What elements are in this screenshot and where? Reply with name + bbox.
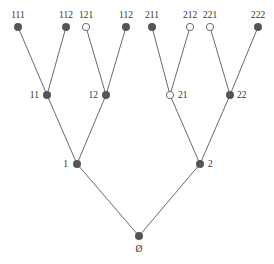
filled-node-root [135, 232, 143, 240]
labels: Ø1211122122111112121112211212221222 [11, 10, 265, 254]
node-label: 211 [145, 10, 159, 20]
filled-node-12 [102, 91, 110, 99]
node-label: 221 [203, 10, 218, 20]
open-node-221 [206, 23, 213, 30]
open-node-212 [186, 23, 193, 30]
node-label: 22 [237, 90, 247, 100]
edge-2-21 [170, 95, 200, 164]
filled-node-22 [226, 91, 234, 99]
edge-22-222 [230, 27, 258, 95]
tree-diagram: Ø1211122122111112121112211212221222 [0, 0, 274, 264]
filled-node-111 [14, 23, 22, 31]
filled-node-211 [148, 23, 156, 31]
open-node-21 [166, 91, 173, 98]
filled-node-1 [73, 160, 81, 168]
node-label: 2 [208, 159, 213, 169]
edge-root-2 [139, 164, 200, 236]
edge-1-12 [77, 95, 106, 164]
edge-22-221 [210, 27, 230, 95]
nodes [14, 23, 262, 240]
node-label: 12 [89, 90, 99, 100]
node-label: Ø [136, 244, 143, 254]
filled-node-2 [196, 160, 204, 168]
edge-12-121 [86, 27, 106, 95]
edge-21-212 [170, 27, 190, 95]
edge-1-11 [47, 95, 77, 164]
node-label: 222 [251, 10, 266, 20]
node-label: 112 [119, 10, 133, 20]
node-label: 212 [183, 10, 198, 20]
edge-root-1 [77, 164, 139, 236]
edge-2-22 [200, 95, 230, 164]
node-label: 121 [79, 10, 94, 20]
filled-node-222 [254, 23, 262, 31]
node-label: 111 [11, 10, 25, 20]
node-label: 112 [59, 10, 73, 20]
node-label: 11 [30, 90, 39, 100]
filled-node-11 [43, 91, 51, 99]
filled-node-112a [62, 23, 70, 31]
filled-node-112b [122, 23, 130, 31]
edge-11-112a [47, 27, 66, 95]
edges [18, 27, 258, 236]
node-label: 1 [63, 159, 68, 169]
node-label: 21 [178, 90, 188, 100]
edge-11-111 [18, 27, 47, 95]
open-node-121 [82, 23, 89, 30]
edge-21-211 [152, 27, 170, 95]
edge-12-112b [106, 27, 126, 95]
